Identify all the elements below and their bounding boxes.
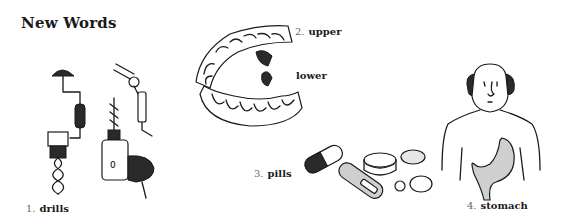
drills-label: 1.drills	[26, 203, 69, 214]
teeth-illustration	[190, 22, 310, 132]
word-upper: upper	[309, 26, 342, 37]
stomach-illustration	[440, 60, 550, 200]
drills-illustration: 0	[30, 60, 170, 200]
svg-text:0: 0	[110, 160, 116, 170]
word-stomach: stomach	[481, 200, 528, 211]
word-drills: drills	[40, 203, 69, 214]
lower-label: lower	[296, 70, 327, 81]
stomach-label: 4.stomach	[467, 200, 528, 211]
pills-illustration	[300, 140, 440, 210]
word-pills: pills	[268, 168, 292, 179]
upper-label: 2.upper	[295, 26, 341, 37]
pills-label: 3.pills	[254, 168, 292, 179]
word-lower: lower	[296, 70, 327, 81]
page-title: New Words	[21, 14, 117, 32]
